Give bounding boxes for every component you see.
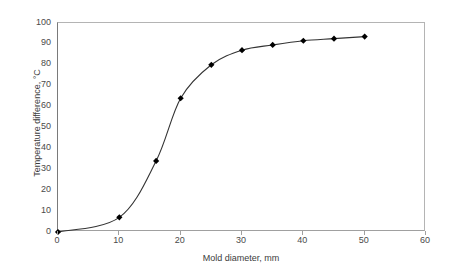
x-axis-tick-mark: [364, 231, 365, 235]
x-tick-label: 40: [287, 236, 317, 245]
x-axis-tick-mark: [302, 231, 303, 235]
data-point-marker: [239, 47, 245, 53]
x-tick-label: 20: [165, 236, 195, 245]
data-point-marker: [362, 33, 368, 39]
x-tick-label: 50: [349, 236, 379, 245]
chart-figure: Temperature difference, °C 0102030405060…: [0, 0, 450, 276]
plot-area: [57, 22, 425, 231]
x-axis-title: Mold diameter, mm: [57, 253, 425, 263]
x-axis-title-text: Mold diameter, mm: [203, 253, 280, 263]
y-tick-label: 70: [26, 80, 51, 89]
series-markers: [55, 33, 368, 235]
x-tick-label: 60: [410, 236, 440, 245]
x-tick-label: 0: [42, 236, 72, 245]
x-axis-tick-mark: [241, 231, 242, 235]
chart-canvas: [58, 23, 426, 232]
y-tick-label: 80: [26, 59, 51, 68]
data-point-marker: [300, 38, 306, 44]
data-point-marker: [331, 36, 337, 42]
y-tick-label: 10: [26, 206, 51, 215]
y-tick-label: 20: [26, 185, 51, 194]
y-tick-label: 40: [26, 143, 51, 152]
y-tick-label: 30: [26, 164, 51, 173]
x-axis-tick-mark: [425, 231, 426, 235]
data-point-marker: [270, 42, 276, 48]
x-axis-tick-mark: [118, 231, 119, 235]
data-point-marker: [153, 158, 159, 164]
x-tick-label: 10: [103, 236, 133, 245]
x-axis-tick-mark: [57, 231, 58, 235]
y-tick-label: 90: [26, 38, 51, 47]
y-tick-label: 60: [26, 101, 51, 110]
data-point-marker: [178, 95, 184, 101]
x-tick-label: 30: [226, 236, 256, 245]
y-tick-label: 50: [26, 122, 51, 131]
y-tick-label: 0: [26, 227, 51, 236]
x-axis-tick-mark: [180, 231, 181, 235]
y-tick-label: 100: [26, 18, 51, 27]
